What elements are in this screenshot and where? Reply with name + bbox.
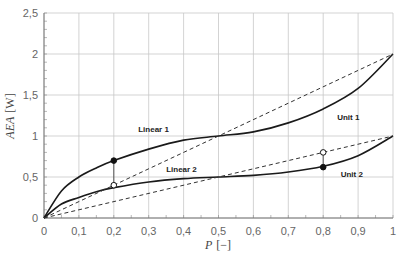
line-chart: Linear 1Unit 1Linear 2Unit 2 00,10,20,30… — [0, 0, 405, 265]
x-tick-label: 0,2 — [106, 225, 121, 237]
annotation-unit-1: Unit 1 — [337, 113, 360, 122]
y-tick-label: 1,5 — [23, 89, 38, 101]
annotation-linear-2: Linear 2 — [166, 165, 197, 174]
x-tick-label: 0,1 — [71, 225, 86, 237]
x-axis-label: P[−] — [204, 238, 231, 252]
y-tick-label: 0 — [32, 212, 38, 224]
filled-marker — [320, 164, 326, 170]
open-marker — [320, 150, 326, 156]
open-marker — [111, 182, 117, 188]
x-tick-label: 0,3 — [141, 225, 156, 237]
x-tick-label: 0,8 — [316, 225, 331, 237]
x-tick-label: 0,6 — [246, 225, 261, 237]
x-tick-label: 0 — [41, 225, 47, 237]
x-tick-label: 0,7 — [281, 225, 296, 237]
y-tick-label: 2,5 — [23, 7, 38, 19]
annotation-linear-1: Linear 1 — [138, 125, 169, 134]
x-tick-label: 0,9 — [350, 225, 365, 237]
y-axis-label: AEA[W] — [3, 93, 17, 139]
y-tick-label: 1 — [32, 130, 38, 142]
annotation-unit-2: Unit 2 — [341, 170, 364, 179]
x-tick-label: 0,4 — [176, 225, 191, 237]
x-tick-label: 1 — [390, 225, 396, 237]
y-tick-label: 0,5 — [23, 171, 38, 183]
y-tick-label: 2 — [32, 48, 38, 60]
filled-marker — [111, 158, 117, 164]
x-tick-label: 0,5 — [211, 225, 226, 237]
